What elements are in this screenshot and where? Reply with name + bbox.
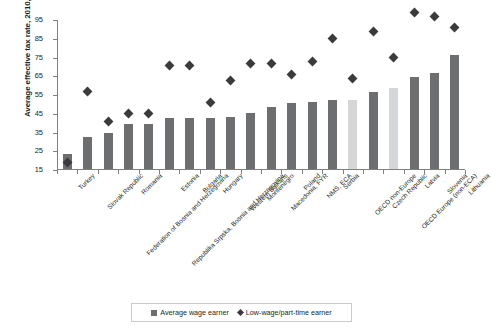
legend-item-low-wage-part-time-earner: Low-wage/part-time earner	[238, 309, 332, 317]
diamond-nms-eca	[307, 56, 317, 66]
diamond-hungary	[205, 98, 215, 108]
y-axis-tick-label: 25	[23, 147, 43, 155]
chart-legend: Average wage earner Low-wage/part-time e…	[131, 303, 352, 322]
y-axis-tick	[53, 39, 57, 40]
y-axis-tick-label: 55	[23, 91, 43, 99]
y-axis-tick-label: 45	[23, 110, 43, 118]
diamond-romania	[123, 109, 133, 119]
diamond-czech-republic	[368, 26, 378, 36]
y-axis-tick-label: 35	[23, 129, 43, 137]
y-axis-tick	[53, 133, 57, 134]
bar-estonia	[165, 118, 174, 169]
bar-republika-srpska-bosnia-and-herzegovina	[144, 124, 153, 169]
square-marker-icon	[151, 310, 157, 316]
diamond-lithuania	[450, 23, 460, 33]
bar-latvia	[410, 77, 419, 169]
diamond-montenegro	[246, 58, 256, 68]
bar-poland	[287, 103, 296, 169]
y-axis-tick	[53, 20, 57, 21]
y-axis-tick	[53, 114, 57, 115]
bar-serbia	[328, 100, 337, 169]
bar-western-balkans	[226, 117, 235, 170]
diamond-slovenia	[429, 11, 439, 21]
diamond-slovak-republic	[83, 86, 93, 96]
diamond-marker-icon	[237, 309, 244, 316]
diamond-oecd-non-europe	[348, 73, 358, 83]
diamond-republika-srpska-bosnia-and-herzegovina	[144, 109, 154, 119]
x-axis-label: Slovak Republic	[105, 172, 143, 210]
diamond-serbia	[327, 34, 337, 44]
y-axis-tick-label: 85	[23, 35, 43, 43]
y-axis-tick-label: 15	[23, 166, 43, 174]
y-axis-tick	[53, 76, 57, 77]
diamond-estonia	[164, 60, 174, 70]
y-axis-tick-label: 75	[23, 54, 43, 62]
bar-federation-of-bosnia-and-herzegovina	[104, 133, 113, 169]
diamond-oecd-europe-non-eca	[389, 53, 399, 63]
y-axis-tick	[53, 151, 57, 152]
x-axis-labels: TurkeySlovak RepublicFederation of Bosni…	[57, 172, 465, 290]
diamond-bulgaria	[185, 60, 195, 70]
legend-label: Average wage earner	[160, 309, 229, 317]
bar-macedonia-fyr	[267, 107, 276, 169]
x-axis-label: Turkey	[77, 172, 96, 191]
diamond-latvia	[409, 8, 419, 18]
diamond-poland	[287, 69, 297, 79]
bar-bulgaria	[185, 118, 194, 169]
diamond-macedonia-fyr	[266, 58, 276, 68]
bar-hungary	[206, 118, 215, 169]
x-axis-label: Estonia	[180, 172, 201, 193]
bar-oecd-europe-non-eca	[389, 88, 398, 169]
bar-nms-eca	[308, 102, 317, 170]
diamond-western-balkans	[225, 75, 235, 85]
plot-area: 152535455565758595	[57, 20, 465, 170]
y-axis-line	[57, 20, 58, 170]
bar-lithuania	[450, 55, 459, 169]
legend-label: Low-wage/part-time earner	[246, 309, 332, 317]
diamond-federation-of-bosnia-and-herzegovina	[103, 116, 113, 126]
bar-oecd-non-europe	[348, 100, 357, 169]
bar-czech-republic	[369, 92, 378, 169]
bar-romania	[124, 124, 133, 169]
y-axis-tick	[53, 58, 57, 59]
y-axis-tick-label: 95	[23, 16, 43, 24]
y-axis-tick	[53, 95, 57, 96]
bar-slovak-republic	[83, 137, 92, 169]
bar-slovenia	[430, 73, 439, 169]
legend-item-average-wage-earner: Average wage earner	[151, 309, 229, 317]
y-axis-tick-label: 65	[23, 72, 43, 80]
bar-montenegro	[246, 113, 255, 169]
